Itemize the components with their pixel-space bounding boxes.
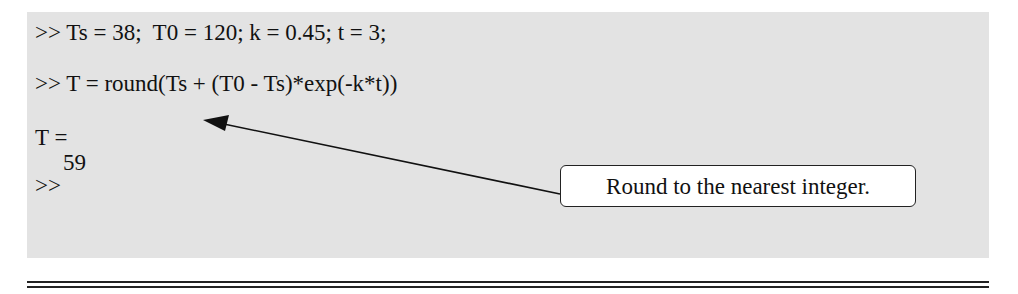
divider-rule-top: [27, 281, 989, 283]
annotation-arrow-icon: [27, 12, 989, 258]
command-window-panel: >> Ts = 38; T0 = 120; k = 0.45; t = 3; >…: [27, 12, 989, 258]
annotation-callout: Round to the nearest integer.: [560, 165, 916, 207]
divider-rule-bottom: [27, 286, 989, 288]
